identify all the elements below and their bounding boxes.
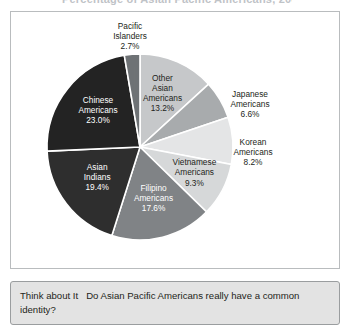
slice-label: AsianIndians19.4% — [84, 162, 111, 192]
figure-container: Percentage of Asian Pacific Americans, 2… — [0, 0, 350, 336]
caption-box: Think about It Do Asian Pacific American… — [10, 281, 340, 325]
figure-title: Percentage of Asian Pacific Americans, 2… — [62, 0, 292, 5]
slice-label: PacificIslanders2.7% — [113, 21, 147, 51]
caption-lead: Think about It — [20, 290, 78, 301]
pie-chart: OtherAsianAmericans13.2%JapaneseAmerican… — [10, 11, 340, 269]
slice-label: JapaneseAmericans6.6% — [230, 89, 269, 119]
slice-label: KoreanAmericans8.2% — [233, 137, 272, 167]
